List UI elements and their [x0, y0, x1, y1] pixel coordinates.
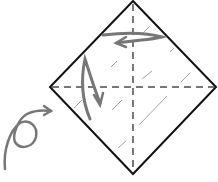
diagram-canvas	[0, 0, 218, 182]
turn-over-arrow-icon	[5, 106, 51, 169]
origami-diagram	[0, 0, 218, 182]
fold-down-arrow-icon	[83, 59, 103, 119]
